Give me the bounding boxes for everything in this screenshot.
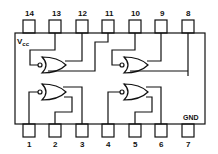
- pin-label-4: 4: [106, 140, 111, 149]
- pin-label-10: 10: [131, 9, 140, 18]
- nor-gate-4: [108, 84, 161, 124]
- pin-1: [23, 124, 35, 137]
- pin-3: [76, 124, 88, 137]
- pin-8: [182, 20, 194, 33]
- ic-diagram: 14 13 12 11 10 9 8 1 2 3 4 5 6 7 Vcc GND: [0, 0, 218, 154]
- pin-14: [23, 20, 35, 33]
- pin-11: [102, 20, 114, 33]
- nor-gate-1: [30, 33, 108, 73]
- pin-6: [155, 124, 167, 137]
- pin-2: [49, 124, 61, 137]
- pin-label-5: 5: [133, 140, 138, 149]
- pin-13: [49, 20, 61, 33]
- pin-4: [102, 124, 114, 137]
- nor-gate-2: [112, 33, 188, 76]
- pin-label-8: 8: [186, 9, 191, 18]
- pin-label-6: 6: [159, 140, 164, 149]
- pin-12: [76, 20, 88, 33]
- pin-10: [129, 20, 141, 33]
- gnd-label: GND: [183, 114, 199, 121]
- pin-9: [155, 20, 167, 33]
- pin-label-9: 9: [160, 9, 165, 18]
- pin-8: [182, 124, 194, 137]
- pin-label-3: 3: [80, 140, 85, 149]
- pin-label-11: 11: [105, 9, 114, 18]
- nor-gate-3: [29, 84, 82, 124]
- pin-label-1: 1: [27, 140, 32, 149]
- vcc-label: Vcc: [17, 37, 30, 47]
- pin-label-14: 14: [25, 9, 34, 18]
- pin-label-12: 12: [78, 9, 87, 18]
- pin-label-7: 7: [186, 140, 191, 149]
- pin-label-13: 13: [52, 9, 61, 18]
- pin-label-2: 2: [53, 140, 58, 149]
- pin-5: [129, 124, 141, 137]
- chip-body: [15, 33, 205, 124]
